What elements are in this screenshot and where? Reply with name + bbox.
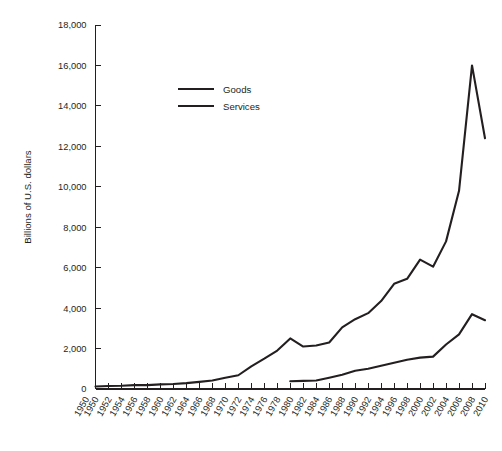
data-series-group: [96, 65, 486, 386]
y-axis-tick-labels: 02,0004,0006,0008,00010,00012,00014,0001…: [58, 20, 86, 394]
y-tick-label: 2,000: [63, 344, 86, 354]
chart-legend: GoodsServices: [178, 84, 260, 112]
line-chart: 02,0004,0006,0008,00010,00012,00014,0001…: [0, 0, 502, 451]
x-axis-tick-labels: 1950195019521954195619581960196219641966…: [72, 395, 490, 418]
legend-label-goods: Goods: [223, 84, 251, 95]
y-tick-label: 16,000: [58, 61, 86, 71]
y-axis-ticks: [96, 25, 101, 389]
y-tick-label: 6,000: [63, 263, 86, 273]
series-line-services: [290, 314, 485, 381]
y-tick-label: 4,000: [63, 304, 86, 314]
y-tick-label: 14,000: [58, 101, 86, 111]
chart-container: 02,0004,0006,0008,00010,00012,00014,0001…: [0, 0, 502, 451]
legend-label-services: Services: [223, 101, 260, 112]
y-tick-label: 0: [81, 384, 86, 394]
y-tick-label: 12,000: [58, 142, 86, 152]
y-tick-label: 8,000: [63, 223, 86, 233]
series-line-goods: [96, 65, 486, 386]
y-tick-label: 10,000: [58, 182, 86, 192]
y-tick-label: 18,000: [58, 20, 86, 30]
y-axis-title: Billions of U.S. dollars: [22, 150, 33, 244]
